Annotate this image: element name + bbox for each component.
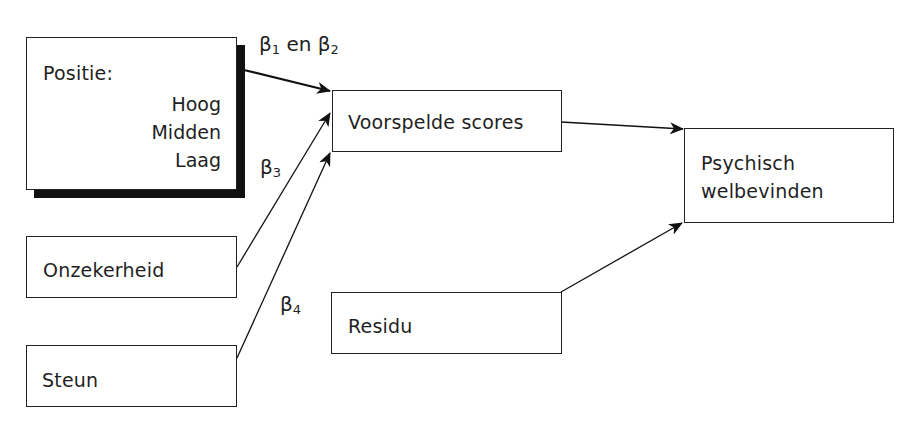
positie-level-midden: Midden xyxy=(151,118,221,146)
positie-title: Positie: xyxy=(43,64,113,83)
beta2-symbol: β xyxy=(318,32,331,56)
coefficient-beta1-beta2: β1 en β2 xyxy=(259,34,339,56)
beta-conjunction: en xyxy=(280,32,318,56)
beta3-symbol: β xyxy=(260,155,273,179)
psychisch-welbevinden-box: Psychisch welbevinden xyxy=(684,128,894,223)
positie-level-laag: Laag xyxy=(151,146,221,174)
voorspelde-scores-box: Voorspelde scores xyxy=(332,90,562,152)
arrow-residu-to-psychisch xyxy=(561,223,682,292)
beta4-subscript: 4 xyxy=(293,302,301,317)
positie-levels: Hoog Midden Laag xyxy=(151,90,221,174)
beta1-symbol: β xyxy=(259,32,272,56)
onzekerheid-label: Onzekerheid xyxy=(43,261,164,280)
steun-box: Steun xyxy=(26,345,237,407)
positie-level-hoog: Hoog xyxy=(151,90,221,118)
coefficient-beta4: β4 xyxy=(280,294,301,316)
psychisch-label-line2: welbevinden xyxy=(701,182,824,201)
steun-label: Steun xyxy=(42,371,98,390)
arrow-onzekerheid-to-voorspelde xyxy=(237,113,330,267)
arrow-steun-to-voorspelde xyxy=(237,153,330,358)
positie-box: Positie: Hoog Midden Laag xyxy=(26,37,237,190)
onzekerheid-box: Onzekerheid xyxy=(26,236,237,298)
beta1-subscript: 1 xyxy=(272,42,280,57)
residu-label: Residu xyxy=(348,317,413,336)
psychisch-label-line1: Psychisch xyxy=(701,154,795,173)
beta2-subscript: 2 xyxy=(331,42,339,57)
voorspelde-scores-label: Voorspelde scores xyxy=(348,113,524,132)
coefficient-beta3: β3 xyxy=(260,157,281,179)
residu-box: Residu xyxy=(331,292,562,354)
beta3-subscript: 3 xyxy=(273,165,281,180)
arrow-voorspelde-to-psychisch xyxy=(561,122,683,129)
beta4-symbol: β xyxy=(280,292,293,316)
arrow-positie-to-voorspelde xyxy=(244,70,330,91)
